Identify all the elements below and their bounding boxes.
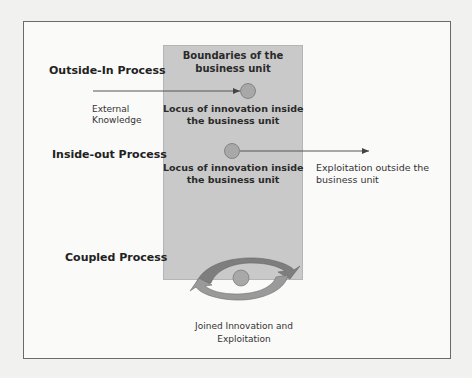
innovation-locus-circle-icon (225, 144, 240, 159)
cycle-arrows-icon (190, 258, 300, 300)
diagram-graphics (0, 0, 472, 378)
innovation-locus-circle-icon (241, 84, 256, 99)
